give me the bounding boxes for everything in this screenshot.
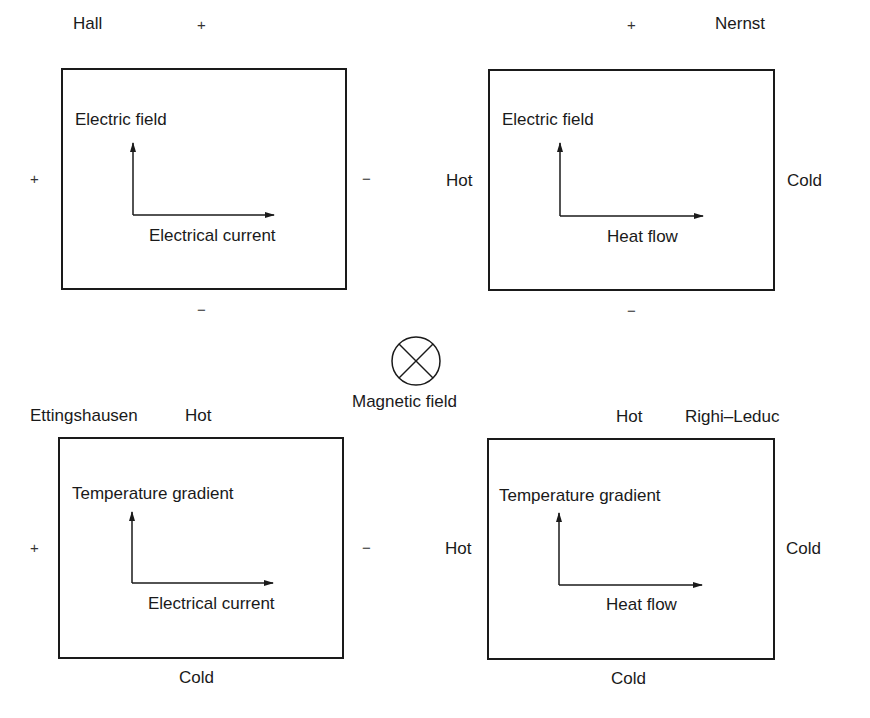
ettingshausen-title: Ettingshausen xyxy=(30,407,138,424)
hall-vertical-axis-label: Electric field xyxy=(75,111,167,128)
righi-leduc-bottom-label: Cold xyxy=(611,670,646,687)
hall-left-sign: + xyxy=(30,171,39,186)
nernst-title: Nernst xyxy=(715,15,765,32)
ettingshausen-right-sign: − xyxy=(362,540,371,555)
ettingshausen-bottom-label: Cold xyxy=(179,669,214,686)
nernst-horizontal-axis-label: Heat flow xyxy=(607,228,678,245)
righi-leduc-right-label: Cold xyxy=(786,540,821,557)
righi-leduc-vertical-axis-label: Temperature gradient xyxy=(499,487,661,504)
nernst-vertical-axis-label: Electric field xyxy=(502,111,594,128)
magnetic-field-into-page-icon xyxy=(392,337,440,385)
ettingshausen-vertical-axis-label: Temperature gradient xyxy=(72,485,234,502)
hall-right-sign: − xyxy=(362,171,371,186)
righi-leduc-title: Righi–Leduc xyxy=(685,408,780,425)
ettingshausen-top-label: Hot xyxy=(185,407,211,424)
righi-leduc-top-label: Hot xyxy=(616,408,642,425)
hall-sample-box xyxy=(61,68,347,290)
magnetic-field-label: Magnetic field xyxy=(352,393,457,410)
hall-top-sign: + xyxy=(197,17,206,32)
nernst-left-label: Hot xyxy=(446,172,472,189)
nernst-bottom-sign: − xyxy=(627,303,636,318)
hall-title: Hall xyxy=(73,15,102,32)
ettingshausen-horizontal-axis-label: Electrical current xyxy=(148,595,275,612)
nernst-right-label: Cold xyxy=(787,172,822,189)
ettingshausen-sample-box xyxy=(58,437,344,659)
nernst-sample-box xyxy=(488,69,775,291)
ettingshausen-left-sign: + xyxy=(30,540,39,555)
hall-horizontal-axis-label: Electrical current xyxy=(149,227,276,244)
righi-leduc-horizontal-axis-label: Heat flow xyxy=(606,596,677,613)
righi-leduc-left-label: Hot xyxy=(445,540,471,557)
righi-leduc-sample-box xyxy=(487,438,775,660)
nernst-top-sign: + xyxy=(627,17,636,32)
hall-bottom-sign: − xyxy=(197,302,206,317)
